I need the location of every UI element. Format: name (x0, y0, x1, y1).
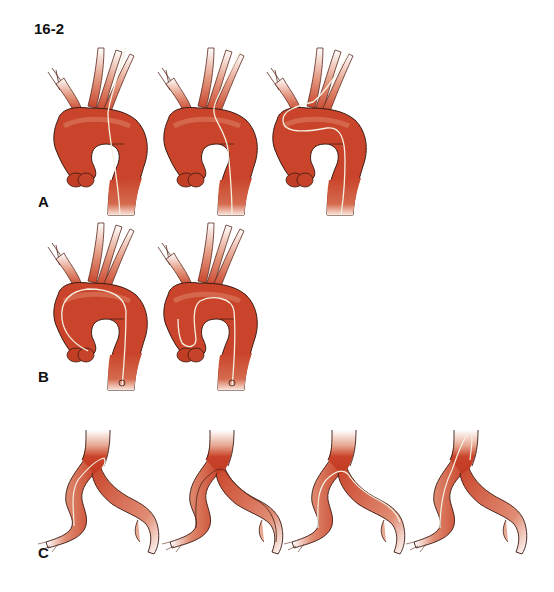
iliac-c4 (406, 430, 527, 554)
panel-b (48, 223, 257, 390)
arch-a2 (158, 48, 257, 215)
iliac-c1 (38, 430, 159, 554)
arch-b2 (158, 223, 257, 390)
panel-c (38, 430, 527, 554)
iliac-c2 (162, 430, 283, 554)
illustration (0, 0, 554, 592)
arch-b1 (48, 223, 147, 390)
iliac-c3 (284, 430, 405, 554)
arch-a1 (48, 48, 147, 215)
arch-a3 (267, 48, 366, 215)
panel-a (48, 48, 366, 215)
